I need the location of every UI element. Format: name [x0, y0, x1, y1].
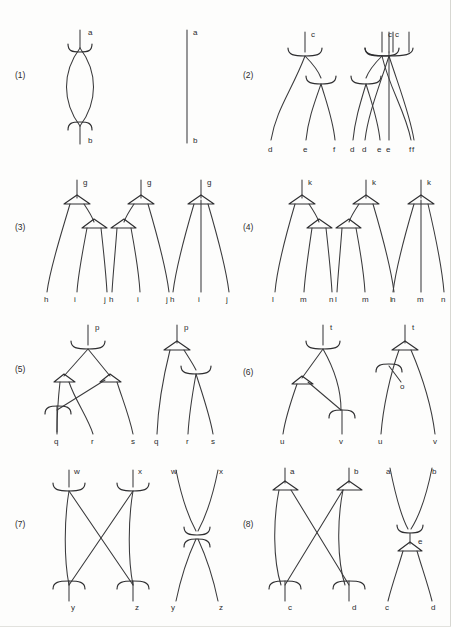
label-4b-leaf-m: m [362, 295, 369, 304]
label-2c-root: c [395, 30, 399, 39]
panel-2b [351, 32, 411, 140]
label-2c-leaf-d: d [362, 145, 366, 154]
label-3a-root: g [83, 178, 87, 187]
row-number-2: (2) [243, 70, 254, 80]
label-3b-root: g [147, 178, 151, 187]
label-6b-annotation-o: o [400, 382, 405, 391]
row-number-1: (1) [15, 70, 26, 80]
label-5a-leaf-r: r [91, 437, 94, 446]
label-3a-leaf-i: i [74, 295, 76, 304]
panel-6a [283, 325, 355, 434]
panel-8a [269, 468, 365, 601]
label-4c-root: k [427, 178, 432, 187]
label-7b-leaf-z: z [219, 603, 223, 612]
label-1a-leaf: b [88, 136, 93, 145]
label-2b-root: c [388, 30, 392, 39]
label-1a-root: a [88, 28, 93, 37]
label-1b-root: a [193, 28, 198, 37]
label-4a-leaf-n: n [329, 295, 333, 304]
label-3a-leaf-j: j [103, 295, 106, 304]
row-8 [269, 468, 432, 601]
panel-1a [67, 30, 94, 144]
label-7b-leaf-y: y [171, 603, 175, 612]
label-7b-root-w: w [170, 467, 177, 476]
label-3c-leaf-j: j [225, 295, 228, 304]
panel-4b [336, 180, 394, 292]
panel-4c [393, 180, 444, 292]
label-7b-root-x: x [219, 467, 223, 476]
label-8a-leaf-d: d [352, 603, 356, 612]
label-8b-leaf-c: c [385, 603, 389, 612]
label-7a-leaf-z: z [135, 603, 139, 612]
label-2a-leaf-e: e [303, 145, 308, 154]
label-8a-leaf-c: c [288, 603, 292, 612]
label-5b-leaf-q: q [154, 437, 158, 446]
label-4b-root: k [372, 178, 377, 187]
panel-7a [53, 470, 149, 601]
label-4a-root: k [308, 178, 313, 187]
row-number-3: (3) [15, 222, 26, 232]
row-2 [271, 32, 411, 140]
label-3c-root: g [207, 178, 211, 187]
label-6a-leaf-v: v [339, 437, 343, 446]
row-number-6: (6) [243, 367, 254, 377]
label-2c-leaf-e: e [386, 145, 391, 154]
label-4a-leaf-l: l [272, 295, 274, 304]
label-2c-leaf-f: f [412, 145, 415, 154]
panel-2a [271, 32, 336, 140]
panel-4a [275, 180, 332, 292]
row-number-7: (7) [15, 519, 26, 529]
panel-3b [111, 180, 169, 292]
panel-3c [173, 180, 229, 292]
row-number-4: (4) [243, 222, 254, 232]
label-6a-leaf-u: u [280, 437, 284, 446]
row-7 [53, 470, 218, 601]
label-8b-leaf-d: d [431, 603, 435, 612]
diagram-plate: (1) (2) (3) (4) (5) (6) (7) (8) a b a b … [0, 0, 451, 627]
label-5b-root: p [184, 323, 189, 332]
label-8b-annotation-e: e [418, 537, 423, 546]
label-2b-leaf-e: e [377, 145, 382, 154]
label-8a-root-a: a [290, 467, 295, 476]
label-7a-root-x: x [138, 467, 142, 476]
label-2b-leaf-d: d [350, 145, 354, 154]
label-3b-leaf-h: h [109, 295, 113, 304]
row-3 [47, 180, 229, 292]
panel-7b [176, 470, 218, 601]
row-5 [45, 325, 213, 434]
panel-5b [157, 325, 213, 434]
label-5a-root: p [95, 323, 100, 332]
label-7a-leaf-y: y [71, 603, 75, 612]
label-6a-root: t [330, 323, 333, 332]
panel-6b [376, 325, 435, 434]
label-3c-leaf-h: h [170, 295, 174, 304]
label-5b-leaf-r: r [186, 437, 189, 446]
row-1 [67, 30, 188, 144]
label-8b-root-a: a [386, 467, 391, 476]
row-6 [283, 325, 435, 434]
label-5a-leaf-q: q [54, 437, 58, 446]
label-5a-leaf-s: s [131, 437, 135, 446]
label-7a-root-w: w [73, 467, 80, 476]
label-4b-leaf-l: l [335, 295, 337, 304]
label-8a-root-b: b [354, 467, 359, 476]
label-4c-leaf-m: m [417, 295, 424, 304]
label-6b-leaf-v: v [433, 437, 437, 446]
label-4c-leaf-l: l [390, 295, 392, 304]
row-number-5: (5) [15, 364, 26, 374]
label-3b-leaf-i: i [137, 295, 139, 304]
label-5b-leaf-s: s [211, 437, 215, 446]
panel-5a [45, 325, 133, 434]
label-4c-leaf-n: n [441, 295, 445, 304]
label-2a-leaf-f: f [333, 145, 336, 154]
label-3c-leaf-i: i [198, 295, 200, 304]
row-4 [275, 180, 444, 292]
panel-8b [388, 468, 432, 601]
label-1b-leaf: b [193, 136, 198, 145]
figure-sheet: (1) (2) (3) (4) (5) (6) (7) (8) a b a b … [0, 0, 451, 627]
label-6b-root: t [412, 323, 415, 332]
row-number-8: (8) [243, 519, 254, 529]
label-4a-leaf-m: m [300, 295, 307, 304]
label-3a-leaf-h: h [44, 295, 48, 304]
label-2a-root: c [311, 30, 315, 39]
